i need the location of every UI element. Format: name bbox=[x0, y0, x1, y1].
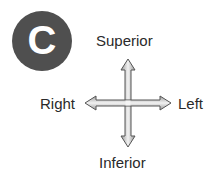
four-way-arrow-icon bbox=[0, 0, 213, 177]
